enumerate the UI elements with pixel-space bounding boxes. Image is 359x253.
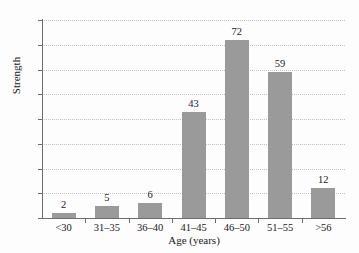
y-axis-tick-mark <box>38 218 42 219</box>
y-axis-tick-mark <box>38 70 42 71</box>
y-axis-title: Strength <box>11 16 22 136</box>
gridline <box>42 20 345 21</box>
plot-area: 25643725912 <box>42 20 345 218</box>
bar-value-label: 43 <box>174 99 214 110</box>
bar <box>95 206 119 218</box>
y-axis-tick-mark <box>38 45 42 46</box>
x-axis-tick-label: >56 <box>293 222 353 234</box>
gridline <box>42 94 345 95</box>
x-axis-line <box>42 218 346 219</box>
y-axis-tick-mark <box>38 193 42 194</box>
x-axis-title: Age (years) <box>42 235 346 246</box>
bar <box>138 203 162 218</box>
bar-value-label: 2 <box>44 200 84 211</box>
bar-value-label: 59 <box>260 59 300 70</box>
y-axis-tick-mark <box>38 94 42 95</box>
y-axis-tick-mark <box>38 20 42 21</box>
bar <box>311 188 335 218</box>
gridline <box>42 70 345 71</box>
y-axis-line <box>42 19 43 219</box>
bar <box>268 72 292 218</box>
gridline <box>42 45 345 46</box>
bar-value-label: 5 <box>87 193 127 204</box>
bar-value-label: 12 <box>303 175 343 186</box>
y-axis-tick-mark <box>38 119 42 120</box>
bar-value-label: 72 <box>217 27 257 38</box>
y-axis-tick-mark <box>38 169 42 170</box>
bar-chart-figure: 25643725912 01020304050607080 <3031–3536… <box>0 0 359 253</box>
y-axis-tick-mark <box>38 144 42 145</box>
bar <box>225 40 249 218</box>
bar-value-label: 6 <box>130 190 170 201</box>
bar <box>182 112 206 218</box>
